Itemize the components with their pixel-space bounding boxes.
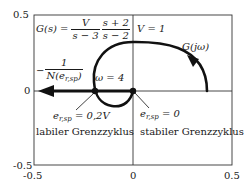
stable-leader-line (135, 93, 149, 108)
x-tick-left: -0.5 (23, 171, 42, 181)
tf-fraction-2: s + 2 s − 2 (102, 18, 130, 41)
tf-fraction-1: V s − 3 (71, 18, 99, 41)
locus-arrow-left-icon (38, 85, 54, 97)
stable-point-value: er,sp = 0 (140, 109, 180, 121)
unstable-limit-cycle-caption: labiler Grenzzyklus (36, 127, 134, 137)
unstable-leader-line (76, 93, 94, 110)
curve-label: G(jω) (182, 42, 209, 52)
y-tick-zero: 0 (24, 86, 30, 96)
unstable-intersection-point (92, 88, 98, 94)
tf-lhs: G(s) = (36, 24, 68, 34)
omega-label: ω = 4 (95, 73, 124, 83)
describing-function-label: − 1 N(er,sp) (36, 58, 83, 83)
stable-limit-cycle-caption: stabiler Grenzzyklus (140, 127, 244, 137)
x-tick-right: 0.5 (224, 171, 240, 181)
x-tick-zero: 0 (130, 171, 136, 181)
y-tick-top: 0.5 (13, 10, 29, 20)
gain-label: V = 1 (137, 24, 165, 34)
transfer-function: G(s) = V s − 3 s + 2 s − 2 (36, 18, 130, 41)
unstable-point-value: er,sp = 0,2V (53, 111, 110, 123)
